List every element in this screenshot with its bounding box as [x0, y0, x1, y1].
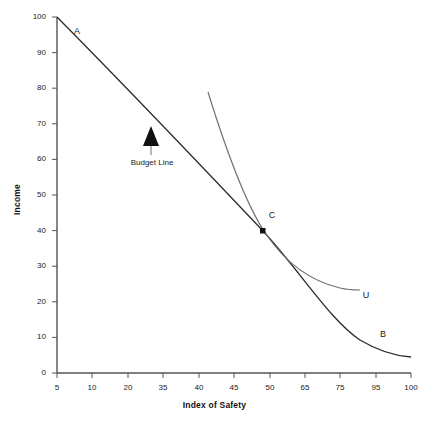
point-c-marker — [260, 228, 266, 234]
x-tick-label-35: 35 — [159, 384, 168, 392]
point-label-c: C — [269, 210, 276, 220]
y-tick-label-20: 20 — [26, 298, 46, 306]
x-axis-ticks — [57, 373, 411, 378]
y-tick-label-100: 100 — [26, 13, 46, 21]
budget-line-annotation-label: Budget Line — [131, 158, 174, 167]
x-axis-title: Index of Safety — [0, 400, 429, 410]
curve-label-u: U — [363, 290, 370, 300]
budget-line-annotation-arrow — [143, 126, 159, 155]
point-label-b: B — [380, 329, 386, 339]
y-tick-label-70: 70 — [26, 120, 46, 128]
x-tick-label-5: 5 — [55, 384, 59, 392]
y-tick-label-80: 80 — [26, 84, 46, 92]
y-axis-ticks — [52, 17, 57, 373]
x-tick-label-75: 75 — [336, 384, 345, 392]
point-label-a: A — [74, 26, 80, 36]
chart-figure: 100 90 80 70 60 50 40 30 20 10 0 5 10 20… — [0, 0, 429, 428]
x-tick-label-10: 10 — [88, 384, 97, 392]
indifference-curve — [208, 92, 360, 290]
x-tick-label-40: 40 — [195, 384, 204, 392]
y-tick-label-50: 50 — [26, 191, 46, 199]
y-tick-label-90: 90 — [26, 49, 46, 57]
y-tick-label-40: 40 — [26, 227, 46, 235]
plot-canvas — [0, 0, 429, 428]
y-axis-title: Income — [12, 184, 22, 215]
y-tick-label-60: 60 — [26, 155, 46, 163]
x-tick-label-50: 50 — [266, 384, 275, 392]
x-tick-label-100: 100 — [404, 384, 417, 392]
budget-line-curve — [57, 17, 411, 357]
y-tick-label-30: 30 — [26, 262, 46, 270]
x-tick-label-20: 20 — [124, 384, 133, 392]
x-tick-label-65: 65 — [301, 384, 310, 392]
x-tick-label-45: 45 — [230, 384, 239, 392]
y-tick-label-0: 0 — [26, 369, 46, 377]
x-tick-label-95: 95 — [372, 384, 381, 392]
y-tick-label-10: 10 — [26, 333, 46, 341]
